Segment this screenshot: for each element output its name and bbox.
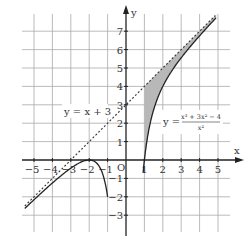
y-tick-label: 4 <box>117 81 123 92</box>
x-axis-label: x <box>234 145 240 156</box>
x-tick-label: −4 <box>43 164 58 175</box>
x-tick-label: −2 <box>80 164 95 175</box>
function-graph: −5−4−3−2−1123457654321−1−2−3 x y O y = x… <box>0 0 248 247</box>
y-tick-label: 7 <box>117 26 123 37</box>
x-tick-label: −5 <box>25 164 40 175</box>
x-tick-label: 2 <box>160 164 166 175</box>
asymptote-label: y = x + 3 <box>63 106 111 117</box>
y-tick-label: 6 <box>117 45 123 56</box>
x-tick-label: 5 <box>215 164 221 175</box>
shaded-area <box>144 15 216 160</box>
curve-label-prefix: y = <box>162 116 180 127</box>
plot-area: −5−4−3−2−1123457654321−1−2−3 x y O y = x… <box>0 0 248 247</box>
y-tick-label: −3 <box>108 210 123 221</box>
x-axis-arrow-icon <box>235 157 244 163</box>
y-axis-label: y <box>130 7 137 18</box>
y-tick-label: 2 <box>117 118 123 129</box>
y-tick-label: 1 <box>117 137 123 148</box>
origin-label: O <box>117 162 125 173</box>
y-tick-label: −2 <box>108 192 123 203</box>
x-tick-label: 3 <box>178 164 184 175</box>
y-tick-label: 5 <box>117 63 123 74</box>
y-axis-arrow-icon <box>123 5 129 14</box>
y-tick-label: −1 <box>108 173 123 184</box>
x-tick-label: 4 <box>196 164 202 175</box>
curve-label-numerator: x³ + 3x² − 4 <box>181 113 221 121</box>
curve-label-denominator: x² <box>198 124 205 132</box>
